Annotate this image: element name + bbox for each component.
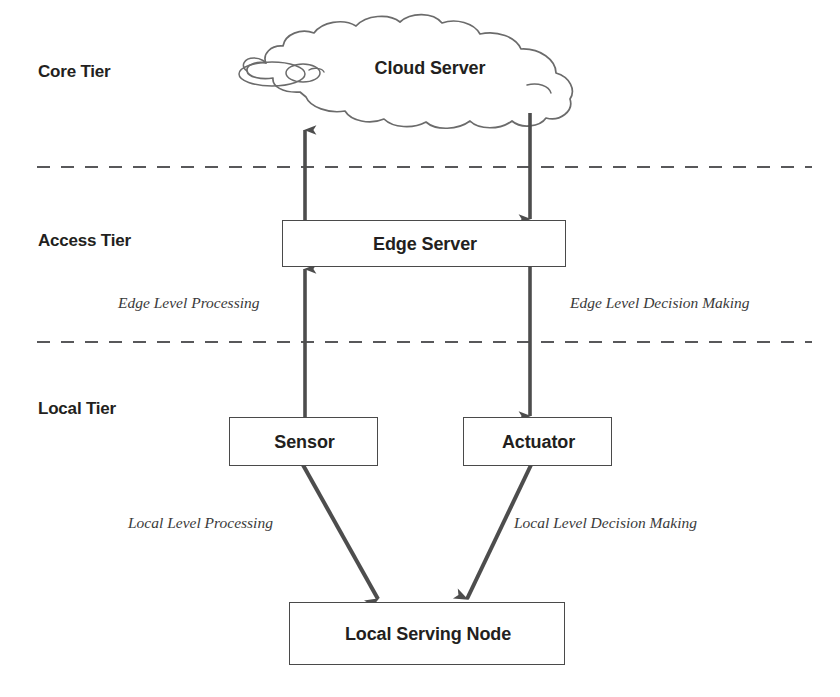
node-edge-server-label: Edge Server bbox=[283, 221, 567, 268]
node-sensor: Sensor bbox=[229, 417, 378, 466]
node-local-serving-node: Local Serving Node bbox=[289, 602, 565, 665]
architecture-diagram: Core Tier Access Tier Local Tier Cloud S… bbox=[0, 0, 840, 697]
tier-label-access: Access Tier bbox=[38, 231, 131, 251]
tier-label-core: Core Tier bbox=[38, 62, 111, 82]
node-sensor-label: Sensor bbox=[230, 418, 379, 467]
node-actuator-label: Actuator bbox=[464, 418, 613, 467]
diagram-vector-layer bbox=[0, 0, 840, 697]
edge-label-local-level-processing: Local Level Processing bbox=[128, 514, 273, 532]
node-edge-server: Edge Server bbox=[282, 220, 566, 267]
edge-label-edge-level-processing: Edge Level Processing bbox=[118, 294, 259, 312]
node-actuator: Actuator bbox=[463, 417, 612, 466]
arrow-actuator-to-local-node bbox=[467, 465, 531, 599]
node-cloud-server: Cloud Server bbox=[300, 54, 560, 82]
edge-label-edge-level-decision-making: Edge Level Decision Making bbox=[570, 294, 749, 312]
node-local-serving-node-label: Local Serving Node bbox=[290, 603, 566, 666]
arrow-sensor-to-local-node bbox=[303, 465, 378, 599]
edge-label-local-level-decision-making: Local Level Decision Making bbox=[514, 514, 697, 532]
tier-label-local: Local Tier bbox=[38, 399, 116, 419]
